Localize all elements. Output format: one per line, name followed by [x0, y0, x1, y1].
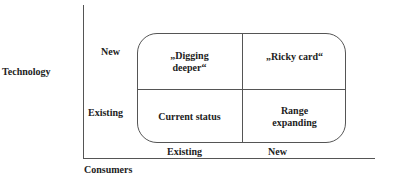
x-tick-new: New: [268, 146, 287, 158]
y-axis-line: [83, 5, 84, 159]
x-tick-existing: Existing: [167, 146, 202, 158]
cell-label-line1: Current status: [158, 111, 220, 123]
cell-label-line2: deeper“: [170, 62, 208, 74]
cell-digging-deeper: „Digging deeper“: [137, 34, 242, 89]
cell-label-line2: expanding: [272, 117, 316, 129]
cell-current-status: Current status: [137, 90, 242, 143]
cell-label-line1: „Ricky card“: [266, 51, 323, 63]
cell-label-line1: „Digging: [170, 50, 208, 62]
cell-label-line1: Range: [272, 105, 316, 117]
y-axis-title: Technology: [2, 66, 51, 78]
x-axis-title: Consumers: [84, 164, 132, 176]
x-axis-line: [83, 158, 375, 159]
y-tick-new: New: [101, 46, 120, 58]
y-tick-existing: Existing: [88, 107, 123, 119]
cell-ricky-card: „Ricky card“: [243, 34, 346, 80]
cell-range-expanding: Range expanding: [243, 90, 346, 143]
